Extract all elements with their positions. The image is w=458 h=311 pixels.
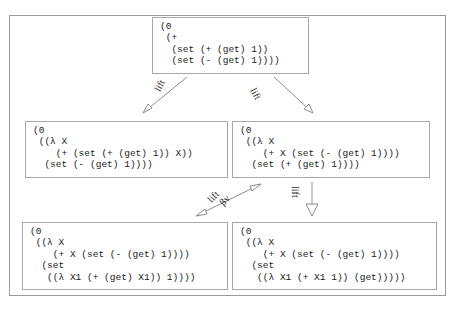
node-left-bottom-code: (0 ((λ X (+ X (set (- (get) 1)))) (set (… [30, 226, 221, 283]
reduction-graph-figure: (0 (+ (set (+ (get) 1)) (set (- (get) 1)… [0, 0, 458, 311]
node-root: (0 (+ (set (+ (get) 1)) (set (- (get) 1)… [152, 17, 309, 74]
node-root-code: (0 (+ (set (+ (get) 1)) (set (- (get) 1)… [160, 21, 302, 67]
node-right-bottom: (0 ((λ X (+ X (set (- (get) 1)))) (set (… [232, 222, 437, 290]
edge-label-lift-vertical: lift [290, 186, 301, 198]
node-right-mid: (0 ((λ X (+ X (set (- (get) 1)))) (set (… [232, 121, 430, 178]
node-left-mid-code: (0 ((λ X (+ (set (+ (get) 1)) X)) (set (… [33, 125, 221, 171]
node-right-mid-code: (0 ((λ X (+ X (set (- (get) 1)))) (set (… [240, 125, 423, 171]
node-right-bottom-code: (0 ((λ X (+ X (set (- (get) 1)))) (set (… [240, 226, 430, 283]
node-left-bottom: (0 ((λ X (+ X (set (- (get) 1)))) (set (… [22, 222, 228, 290]
node-left-mid: (0 ((λ X (+ (set (+ (get) 1)) X)) (set (… [25, 121, 228, 178]
